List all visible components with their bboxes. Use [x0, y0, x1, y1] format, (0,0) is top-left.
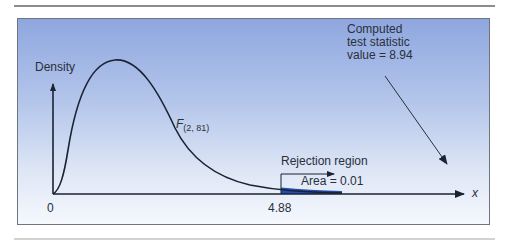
distribution-label: F(2, 81): [176, 117, 209, 135]
test-statistic-pointer: [385, 76, 447, 164]
test-statistic-line-3: value = 8.94: [347, 48, 413, 62]
y-axis-label: Density: [35, 60, 75, 74]
test-statistic-line-1: Computed: [347, 22, 402, 36]
origin-label: 0: [47, 201, 54, 215]
distribution-label-sub: (2, 81): [183, 123, 209, 133]
test-statistic-line-2: test statistic: [347, 35, 410, 49]
f-distribution-plot: [0, 0, 507, 243]
area-label: Area = 0.01: [301, 174, 363, 188]
critical-value-label: 4.88: [268, 201, 291, 215]
x-axis-label: x: [472, 186, 478, 200]
rejection-region-label: Rejection region: [281, 154, 368, 168]
